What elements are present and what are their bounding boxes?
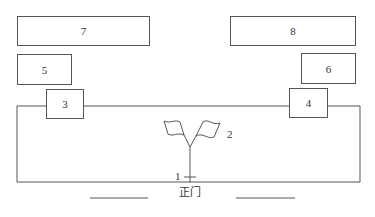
box-8: 8 bbox=[230, 16, 356, 46]
left-flag-icon bbox=[164, 121, 184, 135]
flags-marker-label: 2 bbox=[227, 129, 233, 140]
box-8-label: 8 bbox=[290, 25, 296, 37]
box-4: 4 bbox=[289, 88, 328, 118]
box-7-label: 7 bbox=[81, 25, 87, 37]
main-gate-label: 正门 bbox=[179, 187, 201, 198]
box-3: 3 bbox=[46, 89, 84, 119]
box-6-label: 6 bbox=[326, 63, 332, 75]
box-3-label: 3 bbox=[62, 98, 68, 110]
right-flag-icon bbox=[196, 121, 220, 138]
box-4-label: 4 bbox=[306, 97, 312, 109]
box-5-label: 5 bbox=[42, 64, 48, 76]
box-6: 6 bbox=[301, 53, 356, 84]
box-5: 5 bbox=[17, 54, 72, 85]
box-7: 7 bbox=[17, 16, 150, 46]
flagpole-marker-label: 1 bbox=[175, 171, 181, 182]
